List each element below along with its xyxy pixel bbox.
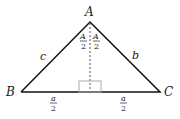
half-angle-left: A 2 <box>79 32 87 51</box>
half-angle-right: A 2 <box>92 32 100 51</box>
half-base-left: a 2 <box>50 94 57 113</box>
svg-text:2: 2 <box>121 104 126 113</box>
side-label-c: c <box>40 50 46 63</box>
svg-text:a: a <box>51 94 56 103</box>
side-label-b: b <box>132 49 139 62</box>
right-angle-marker <box>79 81 101 92</box>
svg-text:2: 2 <box>51 104 56 113</box>
vertex-label-c: C <box>164 85 173 99</box>
svg-text:a: a <box>121 94 126 103</box>
svg-text:A: A <box>79 32 86 41</box>
svg-text:2: 2 <box>81 42 86 51</box>
vertex-label-a: A <box>84 5 94 19</box>
svg-text:2: 2 <box>94 42 99 51</box>
triangle-diagram: A B C c b A 2 A 2 a 2 a 2 <box>0 0 180 119</box>
vertex-label-b: B <box>5 85 15 99</box>
half-base-right: a 2 <box>120 94 127 113</box>
svg-text:A: A <box>92 32 99 41</box>
